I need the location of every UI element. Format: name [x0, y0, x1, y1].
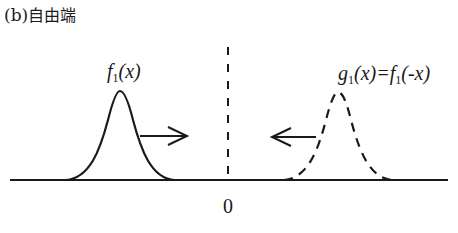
incident-pulse-label: f1(x) [107, 60, 141, 85]
origin-label: 0 [223, 195, 233, 217]
right-arrow-icon [140, 127, 187, 145]
pulse-reflection-diagram: f1(x) g1(x)=f1(-x) 0 [0, 0, 458, 233]
reflected-pulse-label: g1(x)=f1(-x) [338, 62, 430, 87]
left-arrow-icon [272, 128, 316, 146]
